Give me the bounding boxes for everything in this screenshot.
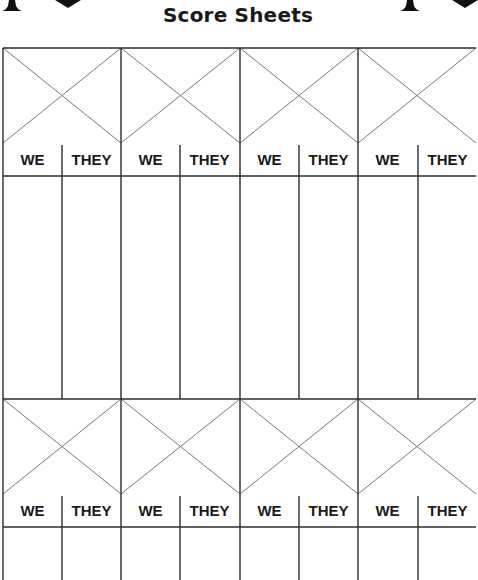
column-header-they: THEY <box>62 502 121 519</box>
column-header-they: THEY <box>180 502 239 519</box>
column-header-we: WE <box>240 151 299 168</box>
column-header-we: WE <box>240 502 299 519</box>
column-header-we: WE <box>3 502 62 519</box>
column-header-we: WE <box>358 151 417 168</box>
column-header-they: THEY <box>180 151 239 168</box>
grid-lines <box>3 48 476 580</box>
column-header-they: THEY <box>299 151 358 168</box>
column-header-we: WE <box>121 151 180 168</box>
column-header-they: THEY <box>418 151 477 168</box>
column-header-they: THEY <box>62 151 121 168</box>
column-header-we: WE <box>3 151 62 168</box>
column-header-we: WE <box>121 502 180 519</box>
column-header-we: WE <box>358 502 417 519</box>
column-header-they: THEY <box>418 502 477 519</box>
column-header-they: THEY <box>299 502 358 519</box>
